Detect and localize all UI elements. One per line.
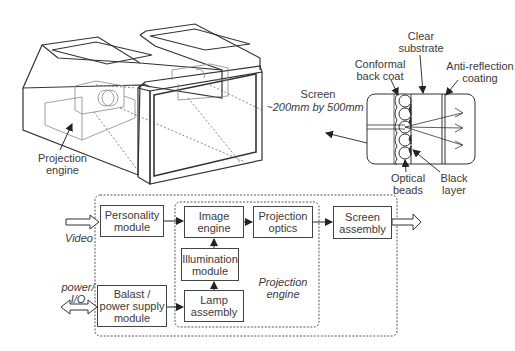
power-io-input-label: power/ I/O xyxy=(58,281,98,305)
black-layer-label: Black layer xyxy=(434,172,474,196)
screen-cross-section xyxy=(367,94,475,164)
personality-module-block: Personality module xyxy=(100,205,164,237)
balast-power-supply-block: Balast / power supply module xyxy=(97,285,167,327)
projection-engine-group-label: Projection engine xyxy=(253,276,313,300)
image-engine-block: Image engine xyxy=(184,206,244,238)
projection-engine-pointer xyxy=(60,124,72,150)
illumination-module-block: Illumination module xyxy=(181,248,239,281)
projection-engine-label: Projection engine xyxy=(38,152,87,176)
video-input-label: Video xyxy=(62,232,96,244)
anti-reflection-coating-label: Anti-reflection coating xyxy=(440,60,515,84)
screen-assembly-block: Screen assembly xyxy=(333,206,392,239)
clear-substrate-label: Clear substrate xyxy=(398,30,444,54)
screen-size-label: ~200mm by 500mm xyxy=(255,101,375,113)
lamp-assembly-block: Lamp assembly xyxy=(184,290,244,322)
screen-label: Screen xyxy=(275,88,361,100)
screen-output-arrow xyxy=(392,214,421,230)
video-input-arrow xyxy=(66,215,99,229)
optical-beads-label: Optical beads xyxy=(385,172,431,196)
projection-optics-block: Projection optics xyxy=(253,206,313,238)
conformal-back-coat-label: Conformal back coat xyxy=(350,58,410,82)
